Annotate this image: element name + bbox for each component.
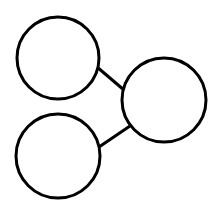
- node-right: [122, 58, 206, 142]
- node-top-left: [17, 17, 99, 99]
- node-bottom-left: [16, 114, 100, 198]
- share-diagram: [0, 0, 219, 213]
- edge-bottom-left-to-right: [99, 126, 130, 147]
- edge-top-left-to-right: [97, 67, 124, 90]
